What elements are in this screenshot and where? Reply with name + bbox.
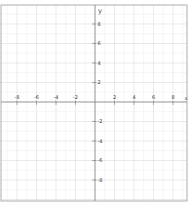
x-tick-label: 2 xyxy=(113,94,116,100)
x-axis-ticks: -8-6-4-22468 xyxy=(15,94,175,105)
y-tick-label: 6 xyxy=(98,40,101,46)
x-axis-label: x xyxy=(185,95,188,101)
x-tick-label: 4 xyxy=(132,94,135,100)
y-axis-label: y xyxy=(98,7,102,15)
coordinate-plane: -8-6-4-22468 8642-2-4-6-8 x y xyxy=(0,0,192,203)
x-tick-label: 6 xyxy=(152,94,155,100)
minor-grid xyxy=(1,5,187,201)
y-tick-label: -6 xyxy=(98,157,103,163)
y-tick-label: -8 xyxy=(98,177,103,183)
axes xyxy=(1,5,187,201)
y-tick-label: 8 xyxy=(98,21,101,27)
y-tick-label: 2 xyxy=(98,79,101,85)
x-tick-label: 8 xyxy=(171,94,174,100)
x-tick-label: -6 xyxy=(34,94,39,100)
y-tick-label: -4 xyxy=(98,138,103,144)
major-grid xyxy=(1,5,187,201)
y-tick-label: -2 xyxy=(98,118,103,124)
x-tick-label: -8 xyxy=(15,94,20,100)
y-tick-label: 4 xyxy=(98,60,101,66)
x-tick-label: -2 xyxy=(73,94,78,100)
plot-frame xyxy=(1,5,187,201)
x-tick-label: -4 xyxy=(54,94,59,100)
